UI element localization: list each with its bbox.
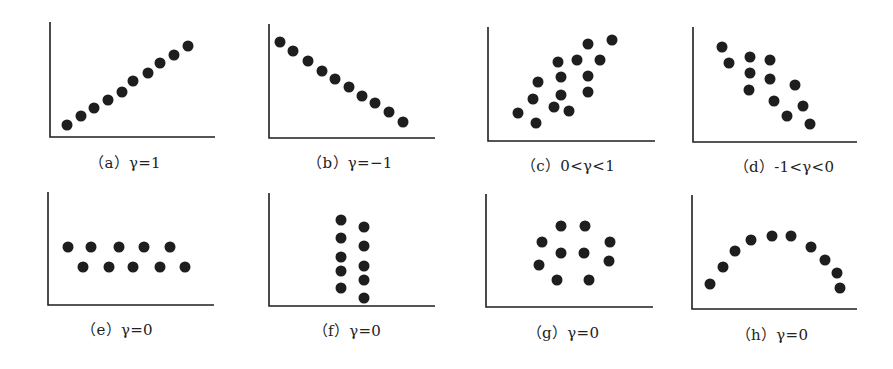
panel-caption-e: （e）γ=0 — [81, 318, 153, 339]
scatter-panel-b — [269, 24, 435, 138]
data-point — [552, 275, 563, 286]
data-point — [180, 262, 191, 273]
panel-caption-a: （a）γ=1 — [89, 151, 161, 172]
data-point — [359, 293, 370, 304]
data-point — [357, 91, 368, 102]
data-point — [143, 68, 154, 79]
data-point — [549, 102, 560, 113]
data-point — [336, 283, 347, 294]
data-point — [595, 55, 606, 66]
data-point — [531, 118, 542, 129]
data-point — [730, 246, 741, 257]
data-point — [765, 55, 776, 66]
data-point — [767, 231, 778, 242]
panel-caption-c: （c）0<γ<1 — [521, 154, 615, 175]
data-point — [359, 261, 370, 272]
data-point — [336, 266, 347, 277]
data-point — [330, 74, 341, 85]
data-point — [724, 58, 735, 69]
data-point — [370, 98, 381, 109]
data-point — [155, 58, 166, 69]
panel-caption-g: （g）γ=0 — [527, 321, 599, 342]
data-point — [128, 262, 139, 273]
data-point — [705, 279, 716, 290]
scatter-panel-h — [692, 195, 857, 309]
data-point — [533, 77, 544, 88]
scatter-panel-g — [486, 194, 653, 307]
data-point — [344, 82, 355, 93]
axes — [269, 193, 435, 306]
scatter-panel-d — [693, 27, 857, 142]
data-point — [564, 106, 575, 117]
data-point — [139, 242, 150, 253]
axes — [692, 195, 857, 309]
data-point — [745, 68, 756, 79]
data-point — [805, 119, 816, 130]
data-point — [769, 96, 780, 107]
data-point — [359, 222, 370, 233]
data-point — [288, 46, 299, 57]
data-point — [89, 103, 100, 114]
data-point — [528, 94, 539, 105]
data-point — [556, 72, 567, 83]
data-point — [336, 252, 347, 263]
data-point — [798, 101, 809, 112]
data-point — [534, 260, 545, 271]
data-point — [303, 56, 314, 67]
data-point — [717, 42, 728, 53]
scatter-panel-c — [488, 27, 655, 141]
data-point — [165, 242, 176, 253]
scatter-panel-f — [269, 193, 435, 306]
data-point — [746, 235, 757, 246]
panel-caption-b: （b）γ=−1 — [307, 151, 392, 172]
panel-caption-f: （f）γ=0 — [313, 319, 381, 340]
data-point — [384, 107, 395, 118]
data-point — [583, 87, 594, 98]
data-point — [336, 215, 347, 226]
data-point — [103, 95, 114, 106]
data-point — [605, 237, 616, 248]
data-point — [78, 262, 89, 273]
data-point — [556, 248, 567, 259]
data-point — [114, 242, 125, 253]
data-point — [580, 221, 591, 232]
scatter-panel-a — [50, 22, 215, 137]
data-point — [336, 233, 347, 244]
axes — [488, 27, 655, 141]
data-point — [62, 120, 73, 131]
data-point — [820, 255, 831, 266]
scatter-panel-e — [48, 192, 214, 305]
data-point — [398, 117, 409, 128]
data-point — [556, 90, 567, 101]
axes — [486, 194, 653, 307]
data-point — [169, 50, 180, 61]
data-point — [359, 241, 370, 252]
panel-caption-d: （d）-1<γ<0 — [734, 155, 835, 176]
data-point — [765, 74, 776, 85]
data-point — [317, 66, 328, 77]
data-point — [718, 262, 729, 273]
data-point — [579, 248, 590, 259]
data-point — [790, 80, 801, 91]
data-point — [835, 283, 846, 294]
data-point — [86, 242, 97, 253]
data-point — [583, 39, 594, 50]
data-point — [782, 111, 793, 122]
data-point — [556, 221, 567, 232]
data-point — [275, 37, 286, 48]
data-point — [607, 35, 618, 46]
data-point — [806, 242, 817, 253]
data-point — [832, 268, 843, 279]
data-point — [63, 242, 74, 253]
data-point — [572, 55, 583, 66]
panel-caption-h: （h）γ=0 — [736, 323, 809, 344]
data-point — [359, 275, 370, 286]
data-point — [786, 231, 797, 242]
data-point — [553, 57, 564, 68]
data-point — [128, 76, 139, 87]
data-point — [745, 52, 756, 63]
data-point — [76, 111, 87, 122]
data-point — [183, 41, 194, 52]
axes — [269, 24, 435, 138]
data-point — [604, 256, 615, 267]
